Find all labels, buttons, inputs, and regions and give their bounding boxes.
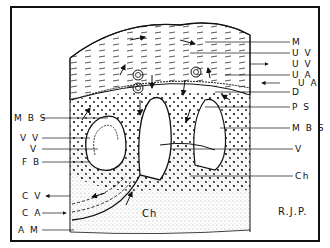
label-mbs-right: M B S bbox=[292, 123, 325, 133]
label-ps: P S bbox=[292, 102, 311, 112]
label-ua-2: U A bbox=[298, 78, 318, 88]
signature: R.J.P. bbox=[278, 206, 308, 217]
label-uv: U V bbox=[292, 48, 312, 58]
label-d: D bbox=[292, 87, 300, 97]
label-v-right: V bbox=[295, 144, 303, 154]
label-v-left: V bbox=[30, 144, 38, 154]
villus-left bbox=[86, 116, 126, 170]
label-fb: F B bbox=[22, 157, 41, 167]
label-cv: C V bbox=[22, 191, 42, 201]
label-ch-inner: Ch bbox=[142, 208, 157, 219]
label-uv-2: U V bbox=[292, 59, 312, 69]
label-m: M bbox=[292, 37, 301, 47]
myometrium-region bbox=[70, 23, 250, 100]
label-ch-right: Ch bbox=[295, 171, 310, 181]
label-vv: V V bbox=[20, 133, 40, 143]
label-ca: C A bbox=[22, 208, 42, 218]
label-mbs-left: M B S bbox=[14, 113, 47, 123]
label-am: A M bbox=[18, 225, 39, 235]
